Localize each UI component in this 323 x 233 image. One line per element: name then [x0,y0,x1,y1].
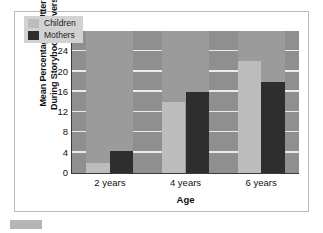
x-axis-tick-labels: 2 years4 years6 years [72,177,299,191]
bar-children-4-years [162,102,185,173]
legend-item-children: Children [28,19,76,28]
legend-label-mothers: Mothers [44,31,75,40]
x-axis-tick-label: 2 years [94,177,125,188]
y-axis-tick-label: 12 [45,107,68,117]
footer-swatch [10,220,42,229]
bar-mothers-6-years [261,82,284,173]
legend-label-children: Children [44,19,76,28]
y-axis-tick-label: 20 [45,67,68,77]
bar-children-6-years [238,61,261,173]
x-axis-tick-label: 6 years [246,177,277,188]
plot-area [72,31,299,173]
bar-mothers-4-years [186,92,209,173]
x-axis-tick-label: 4 years [170,177,201,188]
chart-legend: Children Mothers [24,16,83,43]
legend-swatch-children-icon [28,19,39,28]
y-axis-tick-label: 4 [45,148,68,158]
y-axis-tick-label: 16 [45,87,68,97]
bar-mothers-2-years [110,151,133,173]
chart-figure-frame: Mean Percentage of Utterances During Sto… [14,11,309,212]
y-axis-tick-label: 0 [45,168,68,178]
x-axis-title: Age [72,194,299,205]
y-axis-tick-label: 8 [45,127,68,137]
y-axis-tick-labels: 0481216202428 [45,31,68,173]
x-axis-line [71,173,299,174]
y-axis-tick-label: 24 [45,46,68,56]
bar-children-2-years [86,163,109,173]
legend-item-mothers: Mothers [28,31,76,40]
legend-swatch-mothers-icon [28,31,39,40]
